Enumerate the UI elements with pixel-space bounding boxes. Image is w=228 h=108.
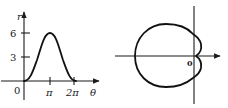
figure: r 6 3 0 π 2π θ 0 — [0, 0, 228, 108]
polar-origin-label: 0 — [187, 58, 193, 68]
tick-label-pi: π — [45, 87, 53, 98]
cartesian-plot: r 6 3 0 π 2π θ — [1, 11, 99, 100]
theta-axis-label: θ — [90, 87, 96, 98]
tick-label-3: 3 — [10, 52, 16, 63]
tick-label-2pi: 2π — [65, 87, 79, 98]
tick-label-6: 6 — [10, 28, 16, 39]
polar-plot: 0 — [115, 6, 220, 104]
r-axis-label: r — [17, 11, 23, 22]
r-theta-curve — [24, 33, 76, 81]
origin-label: 0 — [14, 85, 20, 96]
